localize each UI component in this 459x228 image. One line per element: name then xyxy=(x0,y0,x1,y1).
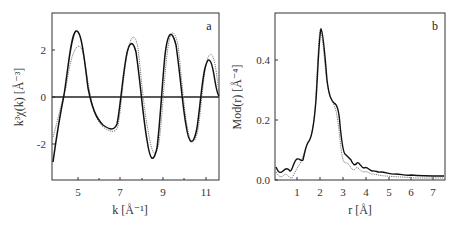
panel-b-xtick-5: 5 xyxy=(386,186,392,198)
panel-b-ytick-0.2: 0.2 xyxy=(256,114,270,126)
panel-a-ytick-minus2: -2 xyxy=(37,138,46,150)
panel-a-y-axis-label: k³χ(k) [Å⁻³] xyxy=(12,68,26,127)
panel-a-xtick-7: 7 xyxy=(117,186,123,198)
panel-a-xtick-11: 11 xyxy=(201,186,212,198)
panel-b-y-axis-label: Mod(r) [Å⁻⁴] xyxy=(230,65,244,130)
panel-b-ytick-0.0: 0.0 xyxy=(256,174,270,186)
panel-a-letter: a xyxy=(206,19,212,33)
panel-a-xtick-9: 9 xyxy=(160,186,166,198)
panel-b-experiment-curve xyxy=(276,29,444,176)
panel-b-xtick-4: 4 xyxy=(363,186,369,198)
panel-a-ytick-2: 2 xyxy=(41,44,47,56)
panel-b-xtick-3: 3 xyxy=(340,186,346,198)
panel-b-xtick-2: 2 xyxy=(317,186,323,198)
panel-a-x-axis-label: k [Å⁻¹] xyxy=(112,203,148,217)
panel-b-xtick-7: 7 xyxy=(430,186,436,198)
panel-b-ytick-0.4: 0.4 xyxy=(256,54,270,66)
panel-a-ytick-0: 0 xyxy=(41,91,47,103)
panel-b-x-axis-label: r [Å] xyxy=(348,203,372,217)
panel-b-xtick-6: 6 xyxy=(408,186,414,198)
panel-a: 2 0 -2 5 7 9 11 k [Å⁻¹] k³χ(k) [Å⁻³] a xyxy=(12,13,219,217)
panel-a-xtick-5: 5 xyxy=(75,186,81,198)
panel-b-xtick-1: 1 xyxy=(294,186,300,198)
panel-b-plot-frame xyxy=(275,13,445,180)
panel-b: 0.4 0.2 0.0 1 2 3 4 5 6 7 r [Å] Mod(r) [… xyxy=(230,13,445,217)
figure: 2 0 -2 5 7 9 11 k [Å⁻¹] k³χ(k) [Å⁻³] a xyxy=(0,0,459,228)
panel-b-letter: b xyxy=(432,19,438,33)
panel-b-fit-curve xyxy=(276,30,444,178)
